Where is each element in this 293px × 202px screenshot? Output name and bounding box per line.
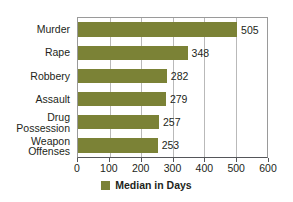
legend-label: Median in Days [115,180,191,191]
category-label: Weapon Offenses [0,135,74,159]
bar [78,138,158,152]
bar [78,22,237,36]
category-label: Rape [0,41,74,65]
category-label: Robbery [0,64,74,88]
axis-tick-label: 600 [259,163,277,174]
axis-tick-label: 500 [227,163,245,174]
axis-tick-label: 0 [74,163,80,174]
bar [78,115,159,129]
bar-value-label: 253 [162,140,180,151]
plot-area: 505348282279257253 [77,17,268,158]
bar-value-label: 282 [171,71,189,82]
bar-row: 257 [78,111,267,134]
bar-value-label: 348 [192,48,210,59]
category-axis-labels: MurderRapeRobberyAssaultDrug PossessionW… [0,17,74,158]
x-axis: 0100200300400500600 [77,158,268,176]
axis-tick-label: 200 [132,163,150,174]
chart-legend: Median in Days [0,180,293,191]
bar-row: 505 [78,18,267,41]
bar-chart: MurderRapeRobberyAssaultDrug PossessionW… [0,0,293,202]
bar-value-label: 279 [170,94,188,105]
category-label: Drug Possession [0,111,74,135]
bar-value-label: 257 [163,117,181,128]
axis-tick-label: 300 [164,163,182,174]
axis-tick-label: 400 [196,163,214,174]
bar-row: 282 [78,64,267,87]
category-label: Assault [0,88,74,112]
category-label: Murder [0,17,74,41]
bar-series: 505348282279257253 [78,18,267,157]
axis-tick-label: 100 [100,163,118,174]
bar [78,69,167,83]
bar-row: 348 [78,41,267,64]
bar-row: 279 [78,88,267,111]
legend-color-swatch-icon [101,181,110,190]
bar [78,46,188,60]
bar [78,92,166,106]
bar-value-label: 505 [241,24,259,35]
bar-row: 253 [78,134,267,157]
